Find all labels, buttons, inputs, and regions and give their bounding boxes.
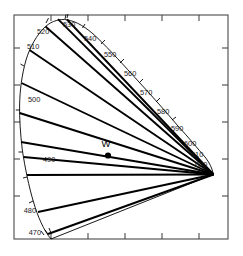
wavelength-label-550: 550 [104,50,116,59]
wavelength-label-480: 480 [24,206,36,215]
wavelength-label-620: 620 [195,160,207,169]
wavelength-label-560: 560 [124,69,136,78]
wavelength-label-570: 570 [140,88,152,97]
wavelength-label-530: 530 [63,20,75,29]
chromaticity-diagram-root: W 470 480 490 500 510 520 530 540 550 56… [0,0,243,256]
wavelength-label-510: 510 [27,42,39,51]
wavelength-label-500: 500 [28,95,40,104]
wavelength-label-610: 610 [191,150,203,159]
wavelength-label-520: 520 [37,27,49,36]
wavelength-label-540: 540 [84,34,96,43]
chart-background [0,0,243,256]
wavelength-label-600: 600 [184,139,196,148]
wavelength-label-580: 580 [157,107,169,116]
white-point-label: W [102,138,111,149]
wavelength-label-470: 470 [29,228,41,237]
chromaticity-diagram-svg: W 470 480 490 500 510 520 530 540 550 56… [0,0,243,256]
domline-485 [27,175,214,176]
wavelength-label-590: 590 [171,124,183,133]
white-point-dot [105,152,111,158]
wavelength-label-490: 490 [43,155,55,164]
